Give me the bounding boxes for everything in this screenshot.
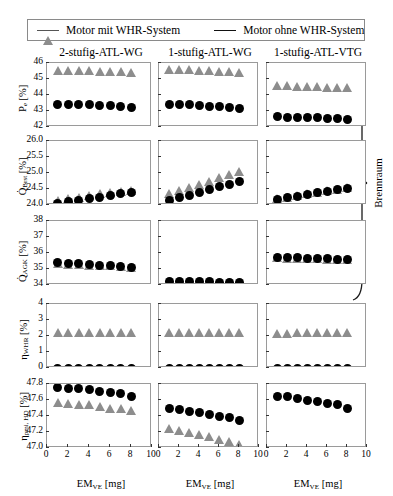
data-point-circle: [165, 100, 174, 109]
data-point-triangle: [342, 328, 352, 337]
plot-panel-r2-c1: [158, 220, 258, 284]
plot-panel-r3-c1: [158, 303, 258, 367]
brennraum-label: Brennraum: [372, 138, 384, 228]
data-point-circle: [235, 177, 244, 186]
data-point-triangle: [302, 328, 312, 337]
y-tickmark-r2-c1-1: [158, 236, 161, 237]
legend-entry-whr: Motor mit WHR-System: [37, 24, 180, 36]
data-point-circle: [53, 199, 62, 204]
y-tickmark-r3-c0-0: [46, 303, 49, 304]
data-point-circle: [85, 194, 94, 203]
data-point-circle: [175, 277, 184, 284]
triangle-marker-icon: [43, 24, 53, 36]
x-tickmark-c2-5: [366, 444, 367, 447]
y-tickmark-r0-c2-2: [266, 94, 269, 95]
data-point-circle: [333, 114, 342, 123]
legend-line-triangle: [37, 30, 59, 31]
data-point-triangle: [74, 66, 84, 75]
data-point-circle: [127, 364, 136, 368]
x-title-unit-0: [mg]: [105, 478, 125, 489]
data-point-triangle: [164, 328, 174, 337]
y-tickmark-r3-c2-1: [266, 319, 269, 320]
data-point-triangle: [184, 328, 194, 337]
data-point-circle: [225, 180, 234, 189]
y-tickmark-r3-c0-1: [46, 319, 49, 320]
data-point-circle: [116, 262, 125, 271]
data-point-triangle: [332, 328, 342, 337]
x-tick-label-c1-1: 2: [171, 450, 185, 460]
data-point-circle: [215, 364, 224, 368]
data-point-triangle: [224, 328, 234, 337]
data-point-triangle: [105, 404, 115, 413]
data-point-circle: [323, 364, 332, 368]
x-tick-label-c2-1: 2: [279, 450, 293, 460]
data-point-circle: [225, 364, 234, 368]
y-tickmark-r1-c2-2: [266, 172, 269, 173]
data-point-circle: [165, 196, 174, 204]
y-tickmark-r2-c2-4: [266, 284, 269, 285]
data-point-triangle: [116, 67, 126, 76]
x-title-main-1: EM: [186, 478, 202, 489]
data-point-circle: [195, 277, 204, 284]
data-point-triangle: [184, 65, 194, 74]
x-title-main-0: EM: [77, 478, 93, 489]
data-point-circle: [64, 197, 73, 204]
data-point-triangle: [105, 328, 115, 337]
y-tickmark-r3-c2-4: [266, 367, 269, 368]
data-point-circle: [175, 193, 184, 202]
y-tickmark-r3-c0-2: [46, 335, 49, 336]
plot-panel-r0-c2: [266, 62, 366, 126]
chart-legend: Motor mit WHR-System Motor ohne WHR-Syst…: [27, 19, 365, 41]
data-point-circle: [273, 364, 282, 368]
legend-entry-no-whr: Motor ohne WHR-System: [214, 24, 364, 36]
data-point-triangle: [174, 65, 184, 74]
y-tickmark-r2-c1-3: [158, 268, 161, 269]
data-point-circle: [64, 384, 73, 393]
data-point-triangle: [282, 329, 292, 338]
data-point-triangle: [63, 399, 73, 408]
y-tickmark-r3-c1-1: [158, 319, 161, 320]
plot-panel-r0-c1: [158, 62, 258, 126]
x-tickmark-c1-3: [218, 444, 219, 447]
data-point-triangle: [53, 328, 63, 337]
data-point-triangle: [214, 67, 224, 76]
x-tickmark-c0-5: [151, 444, 152, 447]
data-point-circle: [273, 253, 282, 262]
y-tick-label-r0-2: 44: [10, 89, 43, 99]
data-point-circle: [323, 187, 332, 196]
x-axis-title-col2: EMVE [mg]: [266, 478, 370, 491]
data-point-triangle: [224, 437, 234, 446]
y-tick-label-r2-4: 34: [10, 279, 43, 289]
data-point-circle: [185, 191, 194, 200]
data-point-circle: [303, 364, 312, 368]
plot-panel-r1-c1: [158, 140, 258, 204]
x-tick-label-c0-0: 0: [39, 450, 53, 460]
data-point-circle: [235, 364, 244, 368]
data-point-circle: [64, 259, 73, 268]
data-point-circle: [205, 277, 214, 284]
data-point-triangle: [234, 328, 244, 337]
y-tick-label-r1-2: 25.0: [10, 167, 43, 177]
y-tickmark-r4-c0-1: [46, 399, 49, 400]
data-point-circle: [303, 190, 312, 199]
x-tick-label-c2-5: 10: [359, 450, 373, 460]
y-tickmark-r1-c1-1: [158, 156, 161, 157]
data-point-circle: [273, 195, 282, 204]
data-point-triangle: [312, 82, 322, 91]
x-tickmark-c2-2: [306, 444, 307, 447]
y-tickmark-r1-c0-0: [46, 140, 49, 141]
data-point-triangle: [194, 66, 204, 75]
y-tickmark-r0-c1-2: [158, 94, 161, 95]
y-tick-label-r1-1: 25.5: [10, 151, 43, 161]
data-point-triangle: [95, 67, 105, 76]
x-title-unit-2: [mg]: [322, 478, 342, 489]
x-tick-label-c1-4: 8: [231, 450, 245, 460]
data-point-circle: [185, 100, 194, 109]
plot-panel-r4-c2: [266, 383, 366, 447]
y-tick-label-r3-0: 4: [10, 298, 43, 308]
y-tickmark-r3-c0-4: [46, 367, 49, 368]
y-tick-label-r3-1: 3: [10, 314, 43, 324]
data-point-triangle: [174, 328, 184, 337]
data-point-circle: [343, 115, 352, 124]
y-tickmark-r3-c1-3: [158, 351, 161, 352]
